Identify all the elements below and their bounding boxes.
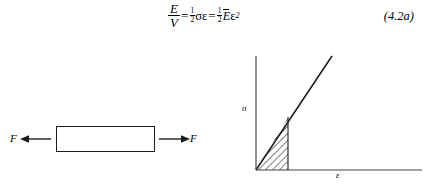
one-half-fraction-1: 1 2 <box>190 7 195 23</box>
fraction-numerator-E: E <box>168 2 180 15</box>
equation-4-2a: E V = 1 2 σ ε = 1 2 E ε 2 <box>168 2 240 30</box>
equation-number: (4.2a) <box>384 9 414 24</box>
epsilon-exponent: 2 <box>236 12 240 20</box>
one-half-fraction-2: 1 2 <box>217 7 222 23</box>
equals-sign-1: = <box>181 9 188 22</box>
stress-strain-line <box>256 56 332 170</box>
force-label-left: F <box>10 132 17 144</box>
one-half-denominator-1: 2 <box>190 16 194 24</box>
energy-per-volume-fraction: E V <box>168 2 180 30</box>
y-axis-label: σ <box>242 103 246 113</box>
equation-row: E V = 1 2 σ ε = 1 2 E ε 2 (4.2a) <box>0 2 432 32</box>
sigma-symbol: σ <box>195 10 202 23</box>
x-axis-label: ε <box>336 170 340 180</box>
one-half-numerator-2: 1 <box>218 7 222 15</box>
arrow-right-icon <box>158 126 190 152</box>
stress-strain-graph: σ ε <box>236 50 432 186</box>
arrow-left-icon <box>20 126 52 152</box>
force-label-right: F <box>190 132 197 144</box>
one-half-denominator-2: 2 <box>218 16 222 24</box>
one-half-numerator-1: 1 <box>190 7 194 15</box>
epsilon-symbol-1: ε <box>202 10 207 23</box>
rectangular-bar-icon <box>56 126 155 152</box>
fraction-denominator-V: V <box>168 16 180 29</box>
stress-strain-plot-svg <box>236 50 432 186</box>
equals-sign-2: = <box>208 9 215 22</box>
figure-page: E V = 1 2 σ ε = 1 2 E ε 2 (4.2a) <box>0 0 432 186</box>
E-bar-symbol: E <box>223 9 231 23</box>
bar-tension-figure: F F <box>0 100 220 186</box>
